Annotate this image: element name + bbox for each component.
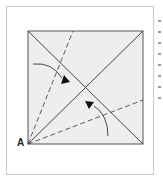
cropped-side-text [158, 20, 163, 108]
fold-diagram [0, 0, 163, 182]
point-label-a: A [17, 137, 24, 148]
